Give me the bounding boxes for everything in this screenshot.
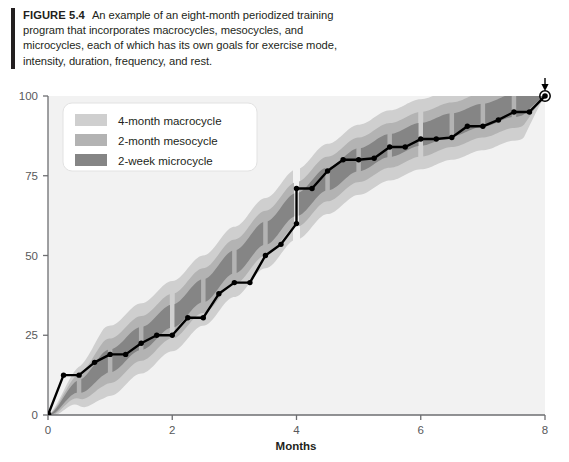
data-point-marker (418, 136, 423, 141)
legend-swatch (75, 114, 107, 126)
data-point-marker (263, 253, 268, 258)
data-point-marker (465, 124, 470, 129)
y-tick-label: 0 (32, 409, 38, 421)
data-point-marker (154, 333, 159, 338)
x-axis-title: Months (276, 440, 317, 452)
y-tick-label: 50 (25, 250, 38, 262)
legend-label: 2-week microcycle (118, 155, 213, 167)
data-point-marker (138, 341, 143, 346)
data-point-marker (232, 280, 237, 285)
y-tick-label: 100 (19, 90, 38, 102)
data-point-marker (61, 372, 66, 377)
periodization-chart: 0255075100 02468 Goal Months 4-month mac… (0, 78, 569, 462)
x-tick-label: 4 (293, 424, 300, 436)
data-point-marker (107, 352, 112, 357)
data-point-marker (356, 157, 361, 162)
data-point-marker (371, 156, 376, 161)
legend-label: 2-month mesocycle (118, 135, 218, 147)
x-tick-label: 2 (169, 424, 175, 436)
data-point-marker (247, 280, 252, 285)
data-point-marker (403, 144, 408, 149)
data-point-marker (76, 372, 81, 377)
figure-number: FIGURE 5.4 (23, 9, 85, 21)
legend-swatch (75, 154, 107, 166)
data-point-marker (325, 168, 330, 173)
chart-legend: 4-month macrocycle2-month mesocycle2-wee… (63, 103, 257, 171)
data-point-marker (511, 109, 516, 114)
data-point-marker (201, 315, 206, 320)
y-axis-ticks: 0255075100 (19, 90, 48, 421)
figure-caption: FIGURE 5.4An example of an eight-month p… (11, 8, 351, 69)
x-axis-ticks: 02468 (45, 415, 548, 436)
goal-arrow-head-icon (541, 84, 548, 91)
data-point-marker (387, 144, 392, 149)
data-point-marker (216, 291, 221, 296)
data-point-marker (170, 333, 175, 338)
data-point-marker (434, 136, 439, 141)
y-tick-label: 25 (25, 329, 38, 341)
x-tick-label: 0 (45, 424, 51, 436)
data-point-marker (278, 242, 283, 247)
data-point-marker (185, 315, 190, 320)
data-point-marker (480, 124, 485, 129)
legend-label: 4-month macrocycle (118, 115, 222, 127)
data-point-marker (123, 352, 128, 357)
caption-text-block: FIGURE 5.4An example of an eight-month p… (23, 8, 351, 69)
data-point-marker (449, 135, 454, 140)
chart-container: 0255075100 02468 Goal Months 4-month mac… (0, 78, 569, 462)
data-point-marker (496, 117, 501, 122)
data-point-marker (309, 186, 314, 191)
caption-rule (11, 8, 15, 69)
data-point-marker (340, 157, 345, 162)
goal-point-marker (542, 93, 548, 99)
data-point-marker (294, 186, 299, 191)
x-tick-label: 8 (542, 424, 548, 436)
x-tick-label: 6 (418, 424, 424, 436)
data-point-marker (92, 360, 97, 365)
y-tick-label: 75 (25, 170, 38, 182)
legend-swatch (75, 134, 107, 146)
data-point-marker (527, 109, 532, 114)
data-point-marker (294, 221, 299, 226)
